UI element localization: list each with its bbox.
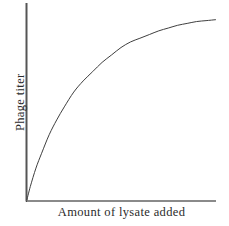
y-axis-label: Phage titer (14, 42, 27, 162)
data-curve-phage-titer (27, 20, 216, 202)
chart-plot-area (0, 0, 229, 226)
x-axis-label: Amount of lysate added (0, 206, 229, 219)
phage-titer-chart: Phage titer Amount of lysate added (0, 0, 229, 226)
